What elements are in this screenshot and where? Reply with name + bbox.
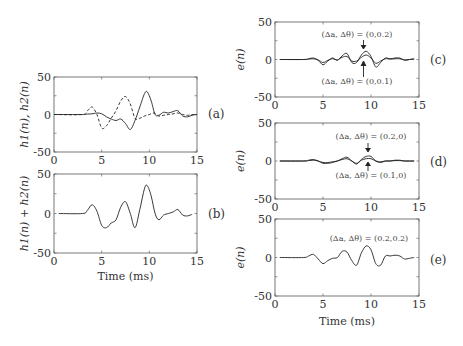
series-line	[59, 185, 192, 228]
x-tick-label: 5	[98, 255, 105, 268]
plot-a: 051015500-50 h1(n), h2(n) (a)	[18, 71, 225, 167]
panel-label-a: (a)	[208, 107, 225, 121]
arrow-up-icon	[366, 162, 371, 171]
x-tick-label: 15	[412, 99, 426, 112]
y-tick-label: 0	[265, 252, 272, 265]
x-tick-label: 5	[320, 298, 327, 311]
panel-label-d: (d)	[430, 155, 447, 169]
x-tick-label: 0	[272, 99, 279, 112]
x-tick-label: 15	[412, 298, 426, 311]
arrow-down-icon	[361, 40, 366, 49]
figure: 051015500-50 h1(n), h2(n) (a) 051015500-…	[0, 0, 463, 346]
panel-label-b: (b)	[208, 207, 225, 221]
x-tick-label: 5	[98, 154, 105, 167]
series-line	[54, 91, 197, 129]
panel-label-e: (e)	[430, 253, 446, 267]
x-axis-label: Time (ms)	[319, 315, 375, 328]
plot-c: 051015500-50 e(n) (c) (Δa, Δθ) = (0,0.2)…	[234, 16, 446, 112]
y-tick-label: -50	[254, 91, 272, 104]
y-tick-label: 50	[258, 213, 272, 226]
y-tick-label: -50	[254, 290, 272, 303]
x-tick-label: 5	[320, 99, 327, 112]
x-axis-label: Time (ms)	[98, 270, 154, 283]
x-tick-label: 0	[272, 298, 279, 311]
plot-e: 051015500-50 e(n) (e) (Δa, Δθ) = (0.2,0.…	[234, 213, 446, 328]
y-tick-label: 50	[258, 16, 272, 29]
x-tick-label: 10	[364, 201, 378, 214]
y-tick-label: 50	[258, 117, 272, 130]
arrow-down-icon	[366, 143, 371, 152]
x-tick-label: 15	[412, 201, 426, 214]
panel-label-c: (c)	[430, 53, 446, 67]
series-line	[280, 158, 414, 163]
y-tick-label: 50	[37, 168, 51, 181]
x-tick-label: 10	[142, 154, 156, 167]
x-tick-label: 5	[320, 201, 327, 214]
plot-d: 051015500-50 e(n) (d) (Δa, Δθ) = (0.2,0)…	[234, 117, 447, 214]
x-tick-label: 10	[364, 298, 378, 311]
y-tick-label: 0	[44, 109, 51, 122]
arrow-up-icon	[361, 61, 366, 77]
y-tick-label: -50	[33, 247, 51, 260]
series-line	[280, 156, 414, 164]
annotation-upper: (Δa, Δθ) = (0,0.2)	[322, 30, 393, 39]
series-line	[280, 246, 414, 266]
x-tick-label: 0	[272, 201, 279, 214]
annotation-lower: (Δa, Δθ) = (0,0.1)	[322, 77, 393, 86]
y-axis-label: h1(n), h2(n)	[18, 81, 31, 148]
y-axis-label: e(n)	[234, 48, 247, 70]
x-tick-label: 15	[190, 255, 204, 268]
y-tick-label: 0	[44, 208, 51, 221]
y-tick-label: -50	[254, 193, 272, 206]
y-tick-label: -50	[33, 146, 51, 159]
annotation-upper: (Δa, Δθ) = (0.2,0)	[336, 132, 407, 141]
y-tick-label: 0	[265, 155, 272, 168]
y-axis-label: e(n)	[234, 150, 247, 172]
x-tick-label: 10	[364, 99, 378, 112]
annotation-lower: (Δa, Δθ) = (0.1,0)	[336, 171, 407, 180]
annotation: (Δa, Δθ) = (0.2,0.2)	[330, 234, 409, 243]
series-line	[280, 55, 414, 63]
x-tick-label: 10	[142, 255, 156, 268]
y-tick-label: 50	[37, 71, 51, 84]
y-tick-label: 0	[265, 54, 272, 67]
y-axis-label: e(n)	[234, 246, 247, 268]
x-tick-label: 0	[51, 154, 58, 167]
x-tick-label: 15	[190, 154, 204, 167]
x-tick-label: 0	[51, 255, 58, 268]
y-axis-label: h1(n) + h2(n)	[18, 176, 31, 252]
plot-b: 051015500-50 h1(n) + h2(n) (b) Time (ms)	[18, 168, 225, 283]
